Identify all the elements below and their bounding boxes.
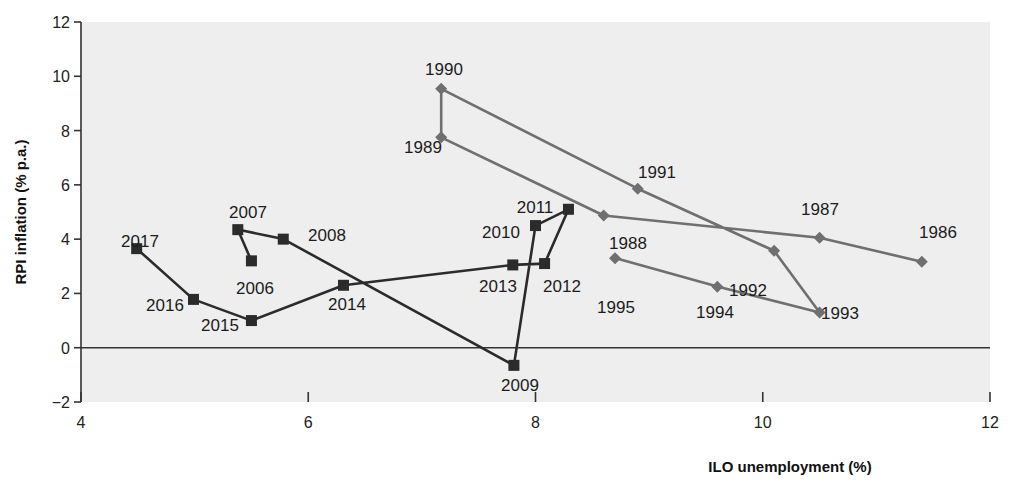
data-point-2006[interactable] [246,255,257,266]
chart-container: 121086420−24681012RPI inflation (% p.a.)… [0,0,1010,482]
data-point-label-2014: 2014 [328,295,366,314]
y-tick-label: 2 [61,285,70,302]
y-tick-label: 12 [52,14,70,31]
data-point-label-2008: 2008 [308,226,346,245]
x-tick-label: 8 [531,414,540,431]
y-tick-label: 10 [52,68,70,85]
y-tick-label: 8 [61,123,70,140]
y-tick-label: 6 [61,177,70,194]
data-point-label-1991: 1991 [638,163,676,182]
x-tick-label: 6 [304,414,313,431]
data-point-2012[interactable] [539,258,550,269]
data-point-label-1988: 1988 [609,234,647,253]
y-tick-label: 4 [61,231,70,248]
x-tick-label: 4 [77,414,86,431]
data-point-2011[interactable] [563,204,574,215]
y-tick-label: −2 [52,394,70,411]
data-point-2014[interactable] [338,280,349,291]
data-point-label-1990: 1990 [425,60,463,79]
data-point-2013[interactable] [507,259,518,270]
data-point-label-1987: 1987 [801,200,839,219]
data-point-label-2009: 2009 [501,376,539,395]
data-point-label-2006: 2006 [236,279,274,298]
data-point-2010[interactable] [530,220,541,231]
data-point-label-2015: 2015 [201,316,239,335]
data-point-label-1992: 1992 [729,281,767,300]
data-point-label-1989: 1989 [404,138,442,157]
data-point-label-2010: 2010 [482,223,520,242]
x-tick-label: 10 [754,414,772,431]
y-axis-title: RPI inflation (% p.a.) [12,139,29,284]
y-tick-label: 0 [61,340,70,357]
data-point-2015[interactable] [246,315,257,326]
data-point-2007[interactable] [232,224,243,235]
data-point-label-2012: 2012 [543,277,581,296]
data-point-label-1995: 1995 [597,298,635,317]
data-point-label-1994: 1994 [696,303,734,322]
data-point-label-2017: 2017 [121,232,159,251]
data-point-2009[interactable] [508,360,519,371]
data-point-label-1986: 1986 [919,223,957,242]
data-point-label-2007: 2007 [229,203,267,222]
data-point-2016[interactable] [188,294,199,305]
data-point-label-2011: 2011 [517,198,554,217]
scatter-chart: 121086420−24681012RPI inflation (% p.a.)… [0,0,1010,482]
x-axis-title: ILO unemployment (%) [708,458,871,475]
data-point-label-2016: 2016 [146,296,184,315]
data-point-label-1993: 1993 [821,304,859,323]
data-point-label-2013: 2013 [479,277,517,296]
x-tick-label: 12 [981,414,999,431]
data-point-2008[interactable] [278,234,289,245]
